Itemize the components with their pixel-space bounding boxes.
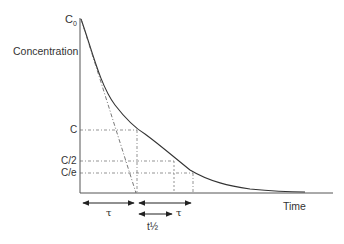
x-axis-label: Time bbox=[283, 201, 306, 212]
half-life-label: t½ bbox=[147, 222, 158, 232]
tau-initial-label: τ bbox=[106, 208, 112, 218]
level-c-half-label: C/2 bbox=[61, 156, 77, 166]
c0-main: C bbox=[65, 13, 73, 25]
c0-sub: 0 bbox=[73, 20, 77, 27]
c0-label: C0 bbox=[65, 14, 77, 27]
level-c-label: C bbox=[70, 125, 77, 135]
initial-tangent-line bbox=[81, 19, 136, 193]
decay-curve bbox=[81, 19, 305, 192]
y-axis-label: Concentration bbox=[13, 46, 78, 57]
level-c-e-label: C/e bbox=[61, 168, 77, 178]
tau-second-label: τ bbox=[176, 208, 182, 218]
